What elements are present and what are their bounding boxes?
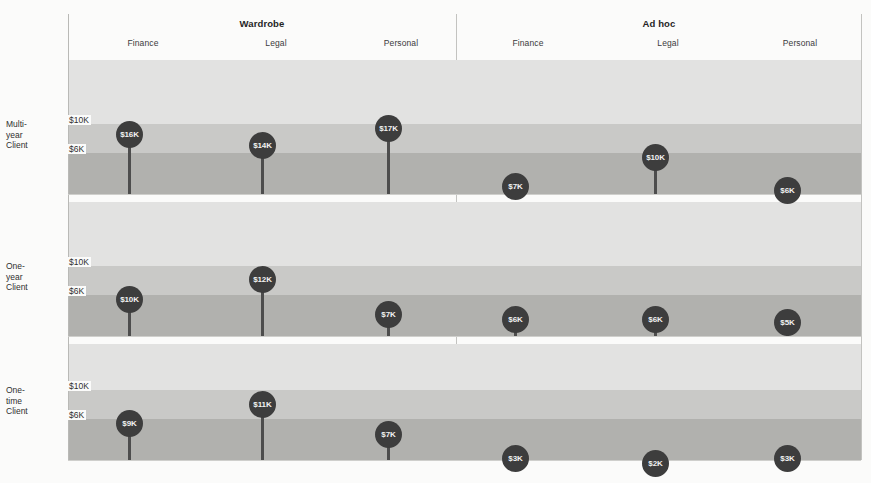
band-above-10k [69, 202, 861, 266]
row-label-line-2: time [6, 396, 64, 407]
row-label-line-2: year [6, 272, 64, 283]
band-6k-10k [69, 266, 861, 295]
data-point-marker[interactable]: $5K [774, 309, 801, 336]
data-point-marker[interactable]: $2K [642, 450, 669, 477]
y-tick-label-6k-row1: $6K [68, 286, 86, 296]
row-label-line-1: One- [6, 261, 64, 272]
band-6k-10k [69, 390, 861, 419]
column-header-adhoc-legal: Legal [608, 38, 728, 48]
row-label-line-1: Multi- [6, 119, 64, 130]
row-separator-1 [68, 194, 861, 195]
band-above-10k [69, 60, 861, 124]
row-panel-multi-year [69, 60, 861, 194]
row-panel-one-time [69, 344, 861, 460]
data-point-marker[interactable]: $7K [375, 421, 402, 448]
data-point-marker[interactable]: $6K [502, 306, 529, 333]
y-tick-label-10k-row0: $10K [68, 115, 91, 125]
data-point-marker[interactable]: $6K [774, 177, 801, 204]
row-label-multi-year-client: Multi- year Client [6, 119, 64, 151]
data-point-marker[interactable]: $7K [502, 173, 529, 200]
column-headers: Wardrobe Ad hoc Finance Legal Personal F… [68, 14, 861, 60]
y-tick-label-6k-row0: $6K [68, 144, 86, 154]
row-label-one-year-client: One- year Client [6, 261, 64, 293]
data-point-marker[interactable]: $17K [375, 115, 402, 142]
row-label-line-1: One- [6, 385, 64, 396]
data-point-marker[interactable]: $11K [249, 391, 276, 418]
row-label-line-2: year [6, 130, 64, 141]
data-point-marker[interactable]: $6K [642, 306, 669, 333]
data-point-marker[interactable]: $3K [502, 445, 529, 472]
band-below-6k [69, 295, 861, 336]
band-above-10k [69, 344, 861, 390]
column-header-wardrobe-finance: Finance [83, 38, 203, 48]
row-label-line-3: Client [6, 140, 64, 151]
data-point-marker[interactable]: $7K [375, 301, 402, 328]
row-label-one-time-client: One- time Client [6, 385, 64, 417]
group-header-wardrobe: Wardrobe [68, 18, 456, 29]
data-point-marker[interactable]: $10K [116, 286, 143, 313]
y-tick-label-10k-row2: $10K [68, 381, 91, 391]
group-header-adhoc: Ad hoc [457, 18, 861, 29]
row-separator-2 [68, 336, 861, 337]
band-below-6k [69, 153, 861, 194]
row-separator-3 [68, 460, 861, 461]
column-header-adhoc-personal: Personal [740, 38, 860, 48]
band-6k-10k [69, 124, 861, 153]
y-tick-label-6k-row2: $6K [68, 410, 86, 420]
band-below-6k [69, 419, 861, 460]
data-point-marker[interactable]: $16K [116, 121, 143, 148]
y-tick-label-10k-row1: $10K [68, 257, 91, 267]
column-header-adhoc-finance: Finance [468, 38, 588, 48]
data-point-marker[interactable]: $3K [774, 445, 801, 472]
data-point-marker[interactable]: $14K [249, 132, 276, 159]
column-header-wardrobe-personal: Personal [341, 38, 461, 48]
data-point-marker[interactable]: $9K [116, 410, 143, 437]
data-point-marker[interactable]: $10K [642, 144, 669, 171]
chart-canvas: Wardrobe Ad hoc Finance Legal Personal F… [0, 0, 871, 483]
plot-area: Wardrobe Ad hoc Finance Legal Personal F… [68, 14, 861, 470]
row-panel-one-year [69, 202, 861, 336]
row-label-line-3: Client [6, 406, 64, 417]
panel-divider-right [861, 14, 862, 460]
row-label-line-3: Client [6, 282, 64, 293]
column-header-wardrobe-legal: Legal [216, 38, 336, 48]
data-point-marker[interactable]: $12K [249, 266, 276, 293]
